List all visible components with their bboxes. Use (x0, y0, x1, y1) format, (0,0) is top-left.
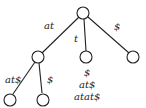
root-node (77, 7, 89, 19)
edge-label-at: at (44, 20, 55, 31)
suffix-label-1: $ (84, 67, 90, 78)
node-at (32, 51, 44, 63)
edge-label-dollar2: $ (47, 74, 53, 85)
suffix-label-3: atat$ (74, 91, 100, 102)
suffix-label-2: at$ (79, 79, 95, 90)
edge-root-dollar (88, 17, 129, 53)
node-t (80, 51, 92, 63)
leaf-atdollar (4, 94, 16, 106)
edge-root-t (84, 19, 86, 51)
suffix-tree-diagram: at t $ at$ $ $ at$ atat$ (0, 0, 146, 108)
node-dollar (127, 51, 139, 63)
edge-label-t: t (74, 33, 79, 44)
edge-at-dollar (39, 63, 42, 93)
edge-label-atdollar: at$ (5, 74, 21, 85)
leaf-dollar (37, 94, 49, 106)
edge-label-dollar: $ (114, 21, 120, 32)
